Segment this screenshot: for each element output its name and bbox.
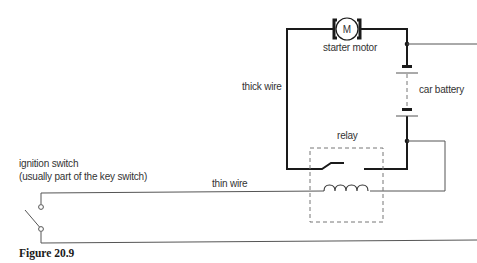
thin-wire-circuit [41, 44, 477, 243]
relay-label: relay [337, 130, 358, 141]
ignition-switch-note: (usually part of the key switch) [19, 171, 147, 182]
car-battery-symbol [396, 65, 418, 116]
relay-coil-icon [324, 185, 368, 191]
car-battery-label: car battery [419, 84, 464, 95]
relay-box [310, 148, 383, 222]
thick-wire-battery-to-relay [364, 116, 407, 169]
ignition-switch-label: ignition switch [19, 158, 78, 169]
battery-negative-plate [402, 65, 412, 68]
circuit-diagram: M [0, 0, 477, 263]
thin-wire-switch-to-coil [41, 191, 324, 204]
switch-contact-top [39, 205, 44, 210]
wire-bottom-return [41, 232, 477, 243]
thin-wire-label: thin wire [212, 178, 247, 189]
ignition-switch-symbol [25, 205, 43, 232]
thick-wire-label: thick wire [242, 81, 282, 92]
switch-lever [25, 210, 40, 227]
motor-m-symbol: M [343, 24, 351, 35]
figure-caption: Figure 20.9 [19, 247, 74, 259]
battery-negative-plate-2 [402, 108, 412, 111]
starter-motor-label: starter motor [323, 42, 377, 53]
switch-contact-bottom [39, 227, 44, 232]
